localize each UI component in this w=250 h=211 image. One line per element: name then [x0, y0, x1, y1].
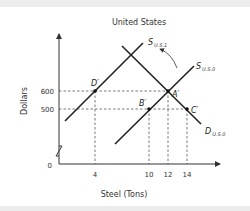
origin-label: 0 [48, 162, 52, 170]
curve-label-s-us1: SU.S.1 [148, 38, 167, 48]
curve-label-s-us0: SU.S.0 [196, 62, 215, 72]
y-tick-600: 600 [41, 88, 54, 96]
point-label-c: C′ [191, 106, 199, 115]
y-tick-500: 500 [41, 106, 54, 114]
curve-label-d-us0: DU.S.0 [205, 127, 225, 137]
x-tick-14: 14 [183, 171, 192, 179]
shift-arrow-icon [160, 49, 177, 68]
supply-demand-diagram: United States D′ A′ B′ C′ SU.S.1 SU.S.0 … [0, 0, 250, 211]
point-label-d: D′ [91, 79, 99, 88]
guide-lines [59, 91, 187, 164]
x-tick-10: 10 [145, 171, 154, 179]
point-label-b: B′ [139, 99, 146, 108]
x-axis-label: Steel (Tons) [101, 190, 148, 199]
demand-curve-us0 [122, 46, 201, 124]
y-axis-label: Dollars [20, 87, 29, 115]
x-tick-12: 12 [164, 171, 173, 179]
x-tick-4: 4 [93, 171, 98, 179]
point-label-a: A′ [171, 90, 179, 99]
diagram-title: United States [112, 18, 166, 27]
